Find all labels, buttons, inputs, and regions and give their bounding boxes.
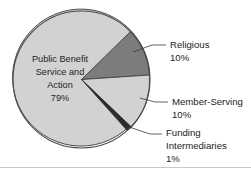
inside-label-percent: 79%	[51, 93, 69, 103]
inside-label-line-3: Action	[47, 80, 73, 90]
callout-percent-member-serving: 10%	[172, 109, 192, 120]
pie-chart-figure: Public Benefit Service and Action 79% Re…	[0, 0, 251, 169]
callout-label-member-serving: Member-Serving	[172, 96, 243, 107]
callout-label-religious: Religious	[170, 39, 210, 50]
pie-chart-svg: Public Benefit Service and Action 79% Re…	[0, 0, 251, 169]
callout-label-funding-line-1: Funding	[166, 127, 201, 138]
callout-percent-funding: 1%	[166, 153, 180, 164]
callout-percent-religious: 10%	[170, 52, 190, 63]
callout-label-funding-line-2: Intermediaries	[166, 140, 227, 151]
inside-label-line-1: Public Benefit	[32, 54, 89, 64]
inside-label-line-2: Service and	[36, 67, 85, 77]
